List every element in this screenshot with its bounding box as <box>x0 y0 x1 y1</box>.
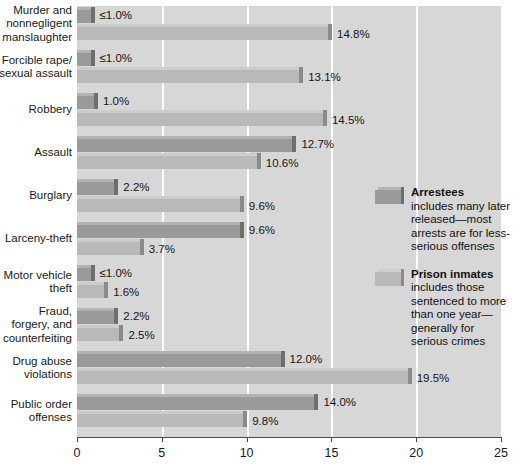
legend-text: Prison inmatesincludes thosesentenced to… <box>411 268 515 349</box>
bar-side-face <box>114 308 118 324</box>
category-label-line: sexual assault <box>0 67 72 81</box>
bar-inmate-6 <box>77 285 104 298</box>
legend-swatch-icon <box>375 190 401 204</box>
tick-label-15: 15 <box>324 446 338 460</box>
bar-face <box>77 27 328 40</box>
legend-description-line: released—most <box>411 213 515 227</box>
bar-top-face <box>77 110 323 113</box>
tick-mark-15 <box>331 437 332 442</box>
legend-description-line: includes many later <box>411 200 515 214</box>
bar-side-face <box>281 351 285 367</box>
bar-arrestee-3 <box>77 139 292 152</box>
bar-arrestee-0 <box>77 10 91 23</box>
category-axis-labels: Murder andnonnegligentmanslaughterForcib… <box>0 0 72 440</box>
category-label-2: Robbery <box>0 103 72 117</box>
bar-face <box>77 354 281 367</box>
bar-face <box>77 311 114 324</box>
value-label-inmate-7: 2.5% <box>128 329 154 341</box>
bar-side-face <box>408 368 412 384</box>
legend-description-line: sentenced to more <box>411 295 515 309</box>
value-label-arrestee-6: ≤1.0% <box>100 267 133 279</box>
bar-top-face <box>77 394 314 397</box>
legend-swatch-lside <box>401 187 404 204</box>
value-label-inmate-3: 10.6% <box>266 157 299 169</box>
bar-arrestee-6 <box>77 268 91 281</box>
bar-side-face <box>314 394 318 410</box>
tick-mark-20 <box>416 437 417 442</box>
bar-top-face <box>77 24 328 27</box>
bar-side-face <box>240 222 244 238</box>
value-label-inmate-0: 14.8% <box>337 28 370 40</box>
category-label-line: forgery, and <box>0 318 72 332</box>
bar-top-face <box>77 196 240 199</box>
tick-mark-0 <box>77 437 78 442</box>
bar-face <box>77 182 114 195</box>
value-label-arrestee-1: ≤1.0% <box>100 52 133 64</box>
bar-face <box>77 96 94 109</box>
bar-face <box>77 156 257 169</box>
category-label-line: Burglary <box>0 189 72 203</box>
legend-description-line: generally for <box>411 322 515 336</box>
bar-top-face <box>77 50 91 53</box>
bar-face <box>77 53 91 66</box>
bar-side-face <box>94 93 98 109</box>
bar-face <box>77 328 119 341</box>
bar-top-face <box>77 308 114 311</box>
legend-swatch-lface <box>375 190 401 204</box>
bar-top-face <box>77 411 243 414</box>
legend-description-line: includes those <box>411 281 515 295</box>
bar-inmate-1 <box>77 70 299 83</box>
bar-inmate-8 <box>77 371 408 384</box>
value-label-inmate-9: 9.8% <box>252 415 278 427</box>
legend-description-line: than one year— <box>411 308 515 322</box>
legend-title: Arrestees <box>411 186 515 200</box>
bar-side-face <box>328 24 332 40</box>
bar-face <box>77 414 243 427</box>
category-label-8: Drug abuseviolations <box>0 355 72 382</box>
value-label-inmate-8: 19.5% <box>417 372 450 384</box>
bar-side-face <box>140 239 144 255</box>
bar-inmate-7 <box>77 328 119 341</box>
value-label-inmate-1: 13.1% <box>308 71 341 83</box>
legend: Arresteesincludes many laterreleased—mos… <box>375 186 515 363</box>
legend-swatch-lside <box>401 269 404 286</box>
bar-side-face <box>91 50 95 66</box>
value-label-arrestee-7: 2.2% <box>123 310 149 322</box>
bar-face <box>77 397 314 410</box>
category-label-line: Murder and <box>0 4 72 18</box>
bar-inmate-4 <box>77 199 240 212</box>
bar-inmate-2 <box>77 113 323 126</box>
legend-entry-prison-inmates: Prison inmatesincludes thosesentenced to… <box>375 268 515 349</box>
bar-face <box>77 285 104 298</box>
value-label-arrestee-3: 12.7% <box>301 138 334 150</box>
bar-top-face <box>77 136 292 139</box>
category-label-0: Murder andnonnegligentmanslaughter <box>0 4 72 45</box>
category-label-line: theft <box>0 282 72 296</box>
bar-top-face <box>77 93 94 96</box>
legend-swatch-icon <box>375 272 401 286</box>
tick-label-5: 5 <box>158 446 165 460</box>
category-label-9: Public orderoffenses <box>0 398 72 425</box>
tick-mark-5 <box>162 437 163 442</box>
category-label-line: manslaughter <box>0 31 72 45</box>
bar-arrestee-8 <box>77 354 281 367</box>
bar-top-face <box>77 67 299 70</box>
value-label-inmate-5: 3.7% <box>149 243 175 255</box>
tick-label-0: 0 <box>74 446 81 460</box>
bar-face <box>77 70 299 83</box>
category-label-7: Fraud,forgery, andcounterfeiting <box>0 305 72 346</box>
bar-side-face <box>91 265 95 281</box>
category-label-6: Motor vehicletheft <box>0 269 72 296</box>
bar-face <box>77 242 140 255</box>
bar-inmate-3 <box>77 156 257 169</box>
bar-arrestee-5 <box>77 225 240 238</box>
value-label-arrestee-0: ≤1.0% <box>100 9 133 21</box>
bar-inmate-9 <box>77 414 243 427</box>
tick-mark-25 <box>501 437 502 442</box>
bar-inmate-0 <box>77 27 328 40</box>
x-axis-line <box>77 437 501 438</box>
bar-top-face <box>77 368 408 371</box>
legend-description-line: serious offenses <box>411 240 515 254</box>
bar-side-face <box>299 67 303 83</box>
bar-face <box>77 199 240 212</box>
